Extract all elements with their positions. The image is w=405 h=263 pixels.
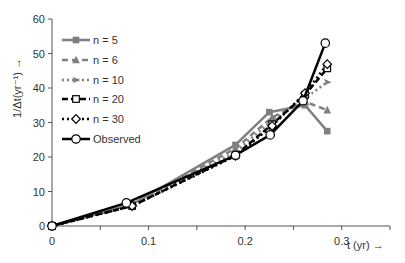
legend-label: n = 10 — [93, 74, 124, 86]
y-tick-label: 40 — [33, 82, 45, 94]
chart-canvas: 010203040506000.10.20.3 n = 5n = 6n = 10… — [0, 0, 405, 263]
y-tick-label: 20 — [33, 151, 45, 163]
series-n10 — [49, 79, 332, 229]
legend-item: Observed — [62, 133, 141, 145]
legend-label: Observed — [93, 133, 141, 145]
x-tick-label: 0 — [49, 235, 55, 247]
series-group — [48, 39, 332, 230]
series-line — [52, 68, 327, 226]
triangle-marker — [323, 106, 331, 114]
legend-label: n = 5 — [93, 34, 118, 46]
legend-item: n = 30 — [62, 113, 124, 125]
circle-open-marker — [122, 199, 130, 207]
circle-open-marker — [299, 97, 307, 105]
circle-open-marker — [231, 151, 239, 159]
arrow-marker — [324, 79, 332, 86]
y-tick-label: 0 — [39, 220, 45, 232]
series-line — [52, 64, 327, 226]
x-tick-label: 0.2 — [237, 235, 252, 247]
y-tick-label: 50 — [33, 48, 45, 60]
x-tick-label: 0.1 — [141, 235, 156, 247]
series-n5 — [49, 102, 331, 229]
legend-label: n = 6 — [93, 54, 118, 66]
circle-open-marker — [266, 131, 274, 139]
circle-open-marker — [48, 222, 56, 230]
legend-label: n = 20 — [93, 93, 124, 105]
legend: n = 5n = 6n = 10n = 20n = 30Observed — [62, 34, 141, 145]
square-marker — [73, 37, 80, 44]
legend-item: n = 6 — [62, 54, 118, 66]
axes: 010203040506000.10.20.3 — [33, 13, 390, 247]
square-open-marker — [73, 96, 80, 103]
square-marker — [324, 128, 331, 135]
legend-label: n = 30 — [93, 113, 124, 125]
x-axis-label: t (yr) → — [347, 239, 384, 251]
circle-open-marker — [321, 39, 329, 47]
legend-item: n = 20 — [62, 93, 124, 105]
series-n20 — [49, 65, 331, 229]
series-n30 — [48, 60, 332, 230]
y-tick-label: 10 — [33, 186, 45, 198]
series-observed — [48, 39, 330, 230]
diamond-open-marker — [72, 115, 81, 124]
legend-item: n = 5 — [62, 34, 118, 46]
y-tick-label: 60 — [33, 13, 45, 25]
y-axis-label: 1/Δt(yr⁻¹) → — [11, 58, 23, 118]
line-chart: 010203040506000.10.20.3 n = 5n = 6n = 10… — [0, 0, 405, 263]
y-tick-label: 30 — [33, 117, 45, 129]
circle-open-marker — [72, 135, 80, 143]
legend-item: n = 10 — [62, 74, 124, 86]
